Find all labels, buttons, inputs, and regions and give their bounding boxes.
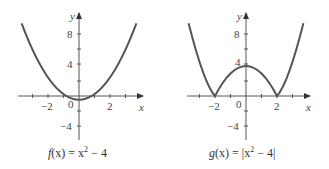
tick-label-0: 0 bbox=[236, 98, 242, 110]
y-axis-label: y bbox=[69, 10, 75, 22]
chart-right: y x 8 4 −4 −2 0 2 g(x) = |x2 − 4| bbox=[187, 10, 311, 160]
x-axis-label: x bbox=[138, 101, 144, 113]
tick-label-0: 0 bbox=[68, 98, 74, 110]
tick-label-4: 4 bbox=[67, 58, 73, 70]
x-axis-label: x bbox=[305, 101, 311, 113]
y-axis-label: y bbox=[236, 10, 242, 22]
figure: y x 8 4 −4 −2 0 2 f(x) = x2 − 4 y bbox=[0, 0, 329, 169]
caption-g: g(x) = |x2 − 4| bbox=[209, 145, 275, 160]
tick-label-2: 2 bbox=[274, 100, 280, 112]
chart-left: y x 8 4 −4 −2 0 2 f(x) = x2 − 4 bbox=[18, 10, 144, 160]
tick-label-neg2: −2 bbox=[208, 100, 220, 112]
tick-label-neg2: −2 bbox=[41, 100, 53, 112]
caption-f: f(x) = x2 − 4 bbox=[48, 145, 107, 160]
tick-label-2: 2 bbox=[107, 100, 113, 112]
tick-label-neg4: −4 bbox=[227, 120, 239, 132]
tick-label-8: 8 bbox=[67, 28, 73, 40]
tick-label-4: 4 bbox=[235, 56, 241, 68]
tick-label-neg4: −4 bbox=[60, 120, 72, 132]
tick-label-8: 8 bbox=[234, 28, 240, 40]
